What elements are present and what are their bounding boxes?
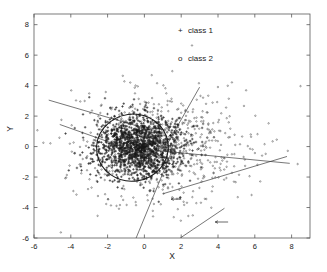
x-tick-label: 0 — [142, 242, 146, 251]
legend-label-class-1: class 1 — [188, 26, 213, 35]
y-tick-label: 4 — [25, 81, 29, 90]
y-tick-label: -4 — [22, 203, 29, 212]
y-tick-label: 0 — [25, 142, 29, 151]
x-tick-label: -6 — [31, 242, 38, 251]
x-tick-label: 6 — [253, 242, 257, 251]
x-tick-label: 4 — [216, 242, 220, 251]
y-tick-label: 2 — [25, 112, 29, 121]
legend-marker-class-1: + — [178, 26, 183, 35]
y-tick-label: -2 — [22, 173, 29, 182]
y-axis-title: Y — [5, 126, 15, 132]
scatter-plot-figure: -6-4-202468-6-4-202468 X Y + class 1 o c… — [0, 0, 327, 272]
y-tick-label: 6 — [25, 51, 29, 60]
legend-label-class-2: class 2 — [188, 54, 213, 63]
x-tick-label: -4 — [67, 242, 74, 251]
x-tick-label: 2 — [179, 242, 183, 251]
legend-marker-class-2: o — [178, 54, 183, 63]
x-tick-label: -2 — [104, 242, 111, 251]
x-tick-label: 8 — [290, 242, 294, 251]
y-tick-label: 8 — [25, 20, 29, 29]
x-axis-title: X — [169, 251, 175, 261]
plot-canvas: -6-4-202468-6-4-202468 X Y + class 1 o c… — [0, 0, 327, 272]
y-tick-label: -6 — [22, 234, 29, 243]
